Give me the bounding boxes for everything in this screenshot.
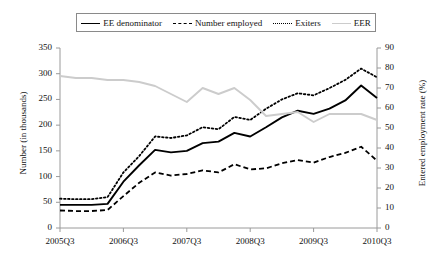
series-line-eer [60, 76, 377, 122]
data-series-layer [60, 69, 377, 211]
series-line-number-employed [60, 147, 377, 211]
axis-lines [60, 48, 377, 228]
series-line-exiters [60, 69, 377, 200]
chart-container: EE denominator Number employed Exiters E… [0, 0, 446, 269]
plot-area [0, 0, 446, 269]
series-line-ee-denominator [60, 86, 377, 205]
